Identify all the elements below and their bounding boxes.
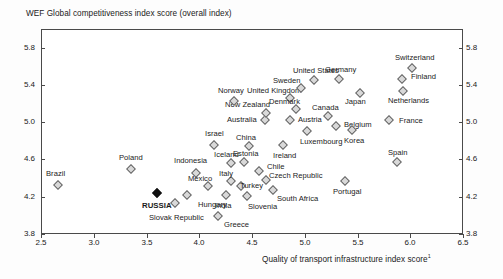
y-axis-tick-label: 3.8 xyxy=(15,229,35,238)
data-point-label: Japan xyxy=(345,97,366,106)
data-point-label: Luxembourg xyxy=(300,137,342,146)
y-axis-tick-label: 5.0 xyxy=(466,117,486,126)
data-point-label: China xyxy=(236,133,256,142)
x-axis-tick-label: 5.0 xyxy=(293,238,317,247)
data-point-label: Brazil xyxy=(46,169,65,178)
x-axis-tick-label: 4.5 xyxy=(240,238,264,247)
data-point-label: Austria xyxy=(298,115,322,124)
data-point-label: Australia xyxy=(227,115,257,124)
data-point-label: Korea xyxy=(344,136,364,145)
data-point-label: Czech Republic xyxy=(269,171,322,180)
data-point-label: Chile xyxy=(267,162,284,171)
y-axis-tick-label: 5.8 xyxy=(466,43,486,52)
y-axis-tick-label: 5.4 xyxy=(466,80,486,89)
data-point-label: Canada xyxy=(312,103,339,112)
data-point-label: Switzerland xyxy=(395,53,434,62)
x-axis-tick-label: 4.0 xyxy=(187,238,211,247)
y-axis-tick-label: 4.2 xyxy=(466,192,486,201)
data-point-label: Portugal xyxy=(333,187,361,196)
x-axis-tick-label: 3.0 xyxy=(82,238,106,247)
y-axis-tick-label: 5.0 xyxy=(15,117,35,126)
data-point-label: Ireland xyxy=(273,151,296,160)
data-point-label: Slovak Republic xyxy=(149,213,204,222)
y-axis-title: WEF Global competitiveness index score (… xyxy=(26,9,232,18)
data-point-label: Finland xyxy=(411,72,436,81)
x-axis-tick-label: 6.5 xyxy=(451,238,475,247)
data-point-label: Italy xyxy=(219,169,233,178)
data-point-label: France xyxy=(399,116,423,125)
x-axis-title-text: Quality of transport infrastructure inde… xyxy=(262,255,428,264)
data-point-label: Sweden xyxy=(273,76,301,85)
data-point-label: Turkey xyxy=(240,181,263,190)
y-axis-tick-label: 5.4 xyxy=(15,80,35,89)
y-axis-tick-label: 3.8 xyxy=(466,229,486,238)
data-point-label: Indonesia xyxy=(174,156,207,165)
data-point-label: Norway xyxy=(218,86,244,95)
data-point-label: Germany xyxy=(325,65,356,74)
data-point-label: Estonia xyxy=(233,149,258,158)
x-axis-tick-label: 3.5 xyxy=(135,238,159,247)
y-axis-tick-label: 4.6 xyxy=(15,154,35,163)
data-point-label: Greece xyxy=(224,220,249,229)
data-point-label: RUSSIA xyxy=(142,201,172,210)
data-point-label: United Kingdom xyxy=(247,86,301,95)
x-axis-tick-label: 5.5 xyxy=(346,238,370,247)
data-point-label: Israel xyxy=(205,129,224,138)
data-point-label: South Africa xyxy=(277,194,318,203)
data-point-label: India xyxy=(215,201,232,210)
x-axis-title: Quality of transport infrastructure inde… xyxy=(262,253,431,264)
data-point-label: Poland xyxy=(119,153,143,162)
data-point-label: Denmark xyxy=(269,97,300,106)
x-axis-tick-label: 6.0 xyxy=(398,238,422,247)
data-point-label: Slovenia xyxy=(248,202,277,211)
data-point-label: Mexico xyxy=(188,174,212,183)
x-axis-tick-label: 2.5 xyxy=(29,238,53,247)
scatter-chart: WEF Global competitiveness index score (… xyxy=(0,0,503,279)
y-axis-tick-label: 5.8 xyxy=(15,43,35,52)
y-axis-tick-label: 4.6 xyxy=(466,154,486,163)
x-axis-footnote-marker: 1 xyxy=(428,253,431,259)
data-point-label: Netherlands xyxy=(388,96,429,105)
y-axis-tick-label: 4.2 xyxy=(15,192,35,201)
data-point-label: Spain xyxy=(388,148,408,157)
